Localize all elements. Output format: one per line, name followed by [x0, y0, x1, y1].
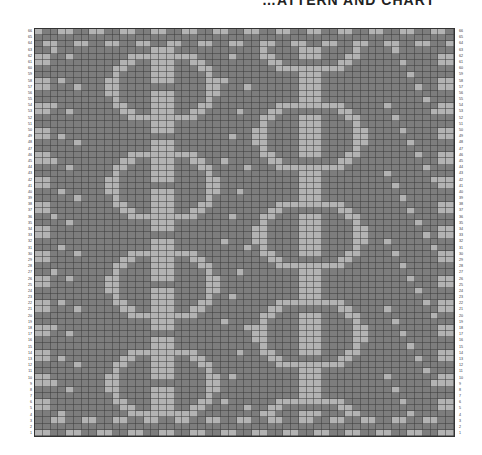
- chart-cell: [392, 430, 400, 436]
- chart-cell: [136, 430, 144, 436]
- chart-cell: [369, 430, 377, 436]
- chart-cell: [213, 430, 221, 436]
- chart-cell: [330, 430, 338, 436]
- chart-cell: [252, 430, 260, 436]
- chart-cell: [431, 430, 439, 436]
- chart-cell: [244, 430, 252, 436]
- chart-cell: [182, 430, 190, 436]
- knitting-chart-grid: [34, 28, 455, 437]
- chart-cell: [407, 430, 415, 436]
- chart-cell: [384, 430, 392, 436]
- chart-cell: [144, 430, 152, 436]
- chart-cell: [82, 430, 90, 436]
- chart-cell: [276, 430, 284, 436]
- chart-cell: [128, 430, 136, 436]
- chart-cell: [97, 430, 105, 436]
- chart-cell: [190, 430, 198, 436]
- row-label: 1: [459, 430, 471, 436]
- chart-cell: [198, 430, 206, 436]
- chart-cell: [338, 430, 346, 436]
- row-labels-right: 6665646362616059585756555453525150494847…: [459, 28, 471, 437]
- chart-cell: [229, 430, 237, 436]
- chart-cell: [151, 430, 159, 436]
- chart-cell: [299, 430, 307, 436]
- chart-cell: [89, 430, 97, 436]
- chart-cell: [175, 430, 183, 436]
- chart-title: …ATTERN AND CHART: [262, 0, 435, 8]
- chart-cell: [221, 430, 229, 436]
- chart-cell: [361, 430, 369, 436]
- chart-cell: [237, 430, 245, 436]
- chart-cell: [268, 430, 276, 436]
- chart-cell: [260, 430, 268, 436]
- row-label: 1: [20, 430, 32, 436]
- chart-cell: [159, 430, 167, 436]
- chart-cell: [35, 430, 43, 436]
- chart-cell: [291, 430, 299, 436]
- chart-cell: [446, 430, 454, 436]
- chart-cell: [415, 430, 423, 436]
- chart-cell: [51, 430, 59, 436]
- chart-cell: [322, 430, 330, 436]
- chart-cell: [120, 430, 128, 436]
- chart-cell: [167, 430, 175, 436]
- chart-cell: [105, 430, 113, 436]
- chart-cell: [423, 430, 431, 436]
- chart-cell: [314, 430, 322, 436]
- chart-cell: [400, 430, 408, 436]
- chart-cell: [307, 430, 315, 436]
- chart-cell: [74, 430, 82, 436]
- chart-cell: [113, 430, 121, 436]
- chart-cell: [438, 430, 446, 436]
- row-labels-left: 6665646362616059585756555453525150494847…: [20, 28, 32, 437]
- chart-cell: [206, 430, 214, 436]
- chart-cell: [283, 430, 291, 436]
- chart-cell: [353, 430, 361, 436]
- chart-cell: [345, 430, 353, 436]
- chart-cell: [58, 430, 66, 436]
- chart-cell: [43, 430, 51, 436]
- chart-cell: [376, 430, 384, 436]
- chart-cell: [66, 430, 74, 436]
